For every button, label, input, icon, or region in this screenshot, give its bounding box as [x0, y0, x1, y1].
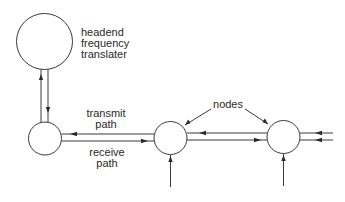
arrow-up-icon: [281, 155, 285, 161]
node-2-circle: [154, 122, 187, 155]
arrow-left-icon: [315, 131, 322, 135]
nodes-label: nodes: [213, 99, 243, 110]
node-3-circle: [267, 121, 300, 154]
network-diagram: [0, 0, 345, 202]
arrow-down-icon: [46, 107, 50, 113]
arrow-left-icon: [315, 138, 322, 142]
arrow-up-icon: [39, 74, 43, 80]
arrow-leader-icon: [185, 119, 191, 125]
arrow-right-icon: [254, 138, 261, 142]
receive-label-line2: path: [96, 158, 117, 169]
arrow-left-icon: [199, 131, 206, 135]
arrow-right-icon: [141, 139, 148, 143]
headend-label-line3: translater: [81, 49, 127, 60]
headend-circle: [17, 14, 73, 70]
arrow-up-icon: [168, 156, 172, 162]
arrow-leader-icon: [262, 119, 268, 125]
node-1-circle: [29, 122, 62, 155]
arrow-left-icon: [70, 132, 77, 136]
transmit-label-line2: path: [95, 119, 116, 130]
